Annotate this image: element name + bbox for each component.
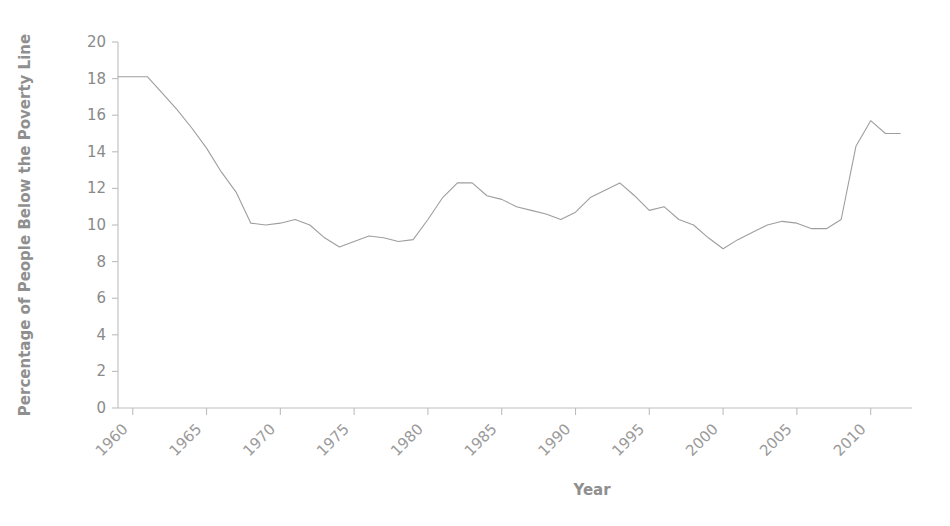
- y-tick-label: 0: [96, 399, 106, 417]
- y-tick-label: 10: [87, 216, 106, 234]
- y-tick-label: 4: [96, 326, 106, 344]
- y-tick-marks: [112, 42, 118, 408]
- y-tick-label: 8: [96, 253, 106, 271]
- x-tick-label: 2000: [682, 420, 722, 460]
- y-tick-label: 16: [87, 106, 106, 124]
- x-tick-label: 2005: [756, 420, 796, 460]
- y-axis: 02468101214161820: [87, 33, 118, 417]
- y-tick-label: 20: [87, 33, 106, 51]
- x-tick-marks: [133, 408, 871, 415]
- x-tick-label: 1975: [313, 420, 353, 460]
- x-tick-label: 1965: [166, 420, 206, 460]
- y-tick-labels: 02468101214161820: [87, 33, 106, 417]
- x-tick-label: 1990: [535, 420, 575, 460]
- x-tick-label: 1995: [608, 420, 648, 460]
- poverty-line-chart: 02468101214161820 1960196519701975198019…: [0, 0, 950, 526]
- y-tick-label: 14: [87, 143, 106, 161]
- y-tick-label: 18: [87, 70, 106, 88]
- x-axis-title: Year: [572, 481, 611, 499]
- x-tick-label: 1980: [387, 420, 427, 460]
- poverty-rate-series: [118, 77, 900, 249]
- y-tick-label: 6: [96, 289, 106, 307]
- y-axis-title: Percentage of People Below the Poverty L…: [16, 34, 34, 416]
- x-tick-label: 2010: [830, 420, 870, 460]
- y-tick-label: 12: [87, 179, 106, 197]
- x-axis: 1960196519701975198019851990199520002005…: [92, 408, 912, 460]
- x-tick-label: 1960: [92, 420, 132, 460]
- x-tick-labels: 1960196519701975198019851990199520002005…: [92, 420, 870, 460]
- chart-canvas: 02468101214161820 1960196519701975198019…: [0, 0, 950, 526]
- y-tick-label: 2: [96, 362, 106, 380]
- x-tick-label: 1970: [239, 420, 279, 460]
- x-tick-label: 1985: [461, 420, 501, 460]
